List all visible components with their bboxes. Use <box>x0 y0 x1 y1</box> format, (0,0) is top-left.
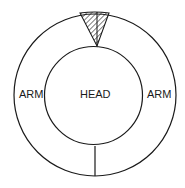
label-left-arm: ARM <box>19 88 43 100</box>
hatched-wedge <box>80 12 109 46</box>
label-head: HEAD <box>80 88 111 100</box>
label-right-arm: ARM <box>147 88 171 100</box>
head-arm-diagram: ARM HEAD ARM <box>0 0 185 188</box>
